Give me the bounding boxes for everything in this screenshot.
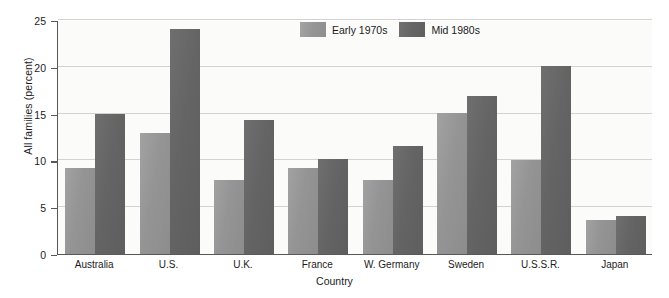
bar-early-1970s	[65, 168, 95, 254]
bar-early-1970s	[511, 160, 541, 254]
y-axis-title: All families (percent)	[22, 16, 34, 196]
bar-early-1970s	[437, 113, 467, 254]
bar-group	[437, 21, 497, 254]
legend-swatch-icon	[300, 22, 326, 37]
bar-mid-1980s	[318, 159, 348, 254]
y-tick-mark	[51, 255, 57, 256]
y-tick-label: 10	[6, 155, 46, 167]
y-tick-label: 5	[6, 202, 46, 214]
bar-group	[288, 21, 348, 254]
bar-early-1970s	[288, 168, 318, 254]
bar-chart: All families (percent) 0510152025 Austra…	[0, 0, 669, 298]
x-axis-title: Country	[0, 275, 669, 287]
bar-mid-1980s	[244, 120, 274, 254]
y-tick-label: 25	[6, 15, 46, 27]
legend-label: Mid 1980s	[431, 24, 479, 36]
bar-group	[511, 21, 571, 254]
legend-item: Early 1970s	[300, 22, 387, 37]
bar-early-1970s	[140, 133, 170, 254]
bar-early-1970s	[586, 220, 616, 254]
bar-group	[586, 21, 646, 254]
bar-mid-1980s	[467, 96, 497, 254]
legend-label: Early 1970s	[332, 24, 387, 36]
bar-group	[214, 21, 274, 254]
bar-group	[140, 21, 200, 254]
y-tick-label: 20	[6, 62, 46, 74]
legend-swatch-icon	[399, 22, 425, 37]
x-tick-label: Japan	[560, 259, 669, 270]
legend-item: Mid 1980s	[399, 22, 479, 37]
bar-mid-1980s	[616, 216, 646, 254]
bar-early-1970s	[363, 180, 393, 254]
chart-legend: Early 1970sMid 1980s	[300, 22, 480, 37]
bar-mid-1980s	[541, 66, 571, 254]
y-tick-label: 15	[6, 109, 46, 121]
gridline	[58, 19, 652, 20]
bar-mid-1980s	[95, 114, 125, 254]
bar-mid-1980s	[393, 146, 423, 254]
bar-mid-1980s	[170, 29, 200, 254]
bar-group	[65, 21, 125, 254]
plot-area	[57, 21, 652, 255]
bar-group	[363, 21, 423, 254]
bar-early-1970s	[214, 180, 244, 254]
